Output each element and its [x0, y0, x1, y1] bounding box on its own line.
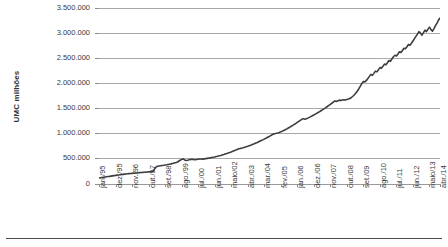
- x-tick-label: out./97: [149, 165, 157, 188]
- plot-area: [99, 8, 440, 184]
- y-tick-label: 1.000.000: [57, 129, 90, 137]
- y-tick-label: 500.000: [63, 154, 90, 162]
- x-tick-label: dez./95: [116, 163, 124, 188]
- y-tick-label: 1.500.000: [57, 104, 90, 112]
- x-tick-label: ago./99: [182, 163, 190, 188]
- x-tick-label: jul./11: [396, 169, 404, 188]
- x-tick-label: nov./96: [132, 164, 140, 188]
- series-line-umc-milhoes: [99, 18, 440, 178]
- y-tick-label: 2.000.000: [57, 79, 90, 87]
- data-series-layer: [99, 8, 440, 184]
- line-chart-figure: UMC milhões 0500.0001.000.0001.500.0002.…: [0, 0, 448, 247]
- x-tick-label: jan./95: [99, 165, 107, 188]
- x-tick-label: out./08: [347, 165, 355, 188]
- x-tick-label: maio/02: [231, 161, 239, 188]
- x-tick-label: jul./00: [198, 168, 206, 188]
- y-axis-title: UMC milhões: [12, 47, 21, 147]
- x-tick-label: jan./06: [297, 165, 305, 188]
- x-axis-tick-labels: jan./95dez./95nov./96out./97set./98ago./…: [99, 184, 440, 240]
- y-tick-label: 0: [86, 180, 90, 188]
- x-tick-label: dez./06: [314, 163, 322, 188]
- y-tick-label: 3.000.000: [57, 29, 90, 37]
- bottom-horizontal-rule: [6, 238, 442, 239]
- y-tick-label: 3.500.000: [57, 4, 90, 12]
- x-tick-label: jun./12: [413, 165, 421, 188]
- x-tick-label: set./98: [165, 165, 173, 188]
- x-tick-label: maio/13: [429, 161, 437, 188]
- x-tick-label: mar./04: [264, 163, 272, 188]
- x-tick-label: abr./14: [440, 165, 448, 188]
- x-tick-label: ago./10: [380, 163, 388, 188]
- x-tick-label: set./09: [363, 165, 371, 188]
- y-axis-tick-labels: 0500.0001.000.0001.500.0002.000.0002.500…: [28, 0, 94, 200]
- x-tick-label: nov./07: [330, 164, 338, 188]
- x-tick-label: abr./03: [248, 165, 256, 188]
- x-tick-label: jun./01: [215, 165, 223, 188]
- y-tick-label: 2.500.000: [57, 54, 90, 62]
- x-tick-label: fev./05: [281, 166, 289, 188]
